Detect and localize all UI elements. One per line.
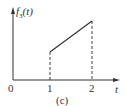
y-label-arg: (t) xyxy=(23,5,33,17)
origin-label: 0 xyxy=(8,83,14,94)
tick-label-1: 1 xyxy=(47,83,53,94)
x-axis-label: t xyxy=(115,84,118,95)
figure-caption: (c) xyxy=(56,95,68,106)
ramp-segment xyxy=(50,21,92,52)
y-axis-arrow-icon xyxy=(11,7,15,14)
y-axis-label: f3(t) xyxy=(16,6,33,20)
tick-label-2: 2 xyxy=(89,83,95,94)
x-axis-arrow-icon xyxy=(113,78,120,82)
